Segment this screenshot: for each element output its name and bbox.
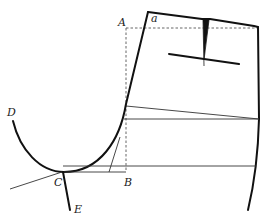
label-a: a	[151, 12, 158, 25]
label-D: D	[6, 106, 16, 119]
pattern-svg: A a B C D E	[0, 0, 269, 224]
pattern-diagram: A a B C D E	[0, 0, 269, 224]
crotch-bisector	[109, 137, 120, 172]
label-C: C	[54, 176, 63, 189]
label-A: A	[117, 16, 126, 29]
label-E: E	[73, 203, 82, 216]
dart-fill	[203, 20, 209, 58]
label-B: B	[123, 176, 132, 189]
inseam-line	[63, 172, 70, 210]
crotch-curve	[13, 12, 148, 172]
hip-slant-line	[126, 106, 259, 119]
